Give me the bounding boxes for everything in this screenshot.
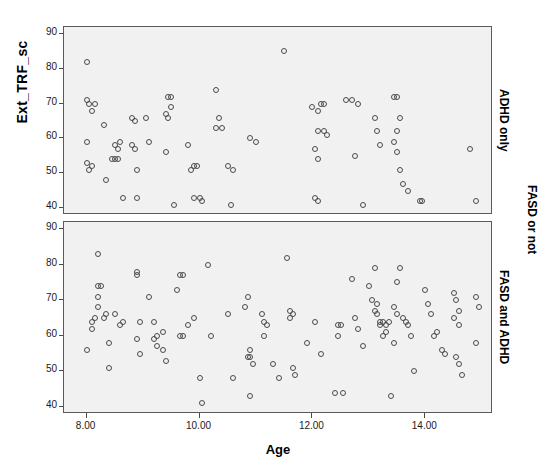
data-point <box>86 167 92 173</box>
y-axis-tick: 70 <box>0 299 63 300</box>
y-tick-mark <box>59 264 63 265</box>
y-axis-tick: 90 <box>0 228 63 229</box>
data-point <box>171 202 177 208</box>
data-point <box>199 198 205 204</box>
data-point <box>106 340 112 346</box>
data-point <box>315 156 321 162</box>
data-point <box>473 198 479 204</box>
data-point <box>89 108 95 114</box>
data-point <box>261 333 267 339</box>
scatter-plot-figure: Ext_TRF_sc 405060708090 405060708090 8.0… <box>0 0 558 473</box>
data-point <box>360 202 366 208</box>
data-point <box>292 372 298 378</box>
y-axis-tick: 40 <box>0 406 63 407</box>
data-point <box>380 333 386 339</box>
data-point <box>250 361 256 367</box>
data-point <box>230 375 236 381</box>
y-axis-tick: 50 <box>0 370 63 371</box>
data-point <box>247 347 253 353</box>
y-tick-mark <box>59 406 63 407</box>
y-tick-label: 50 <box>46 165 57 176</box>
data-point <box>115 156 121 162</box>
data-point <box>397 115 403 121</box>
data-point <box>405 322 411 328</box>
data-point <box>374 301 380 307</box>
data-point <box>134 272 140 278</box>
data-point <box>180 333 186 339</box>
data-point <box>391 340 397 346</box>
data-point <box>191 195 197 201</box>
x-axis-ticks: 8.0010.0012.0014.00 <box>63 413 492 439</box>
panel-adhd-only <box>63 26 492 214</box>
data-point <box>312 319 318 325</box>
data-point <box>185 142 191 148</box>
data-point <box>146 139 152 145</box>
data-point <box>287 315 293 321</box>
data-point <box>247 354 253 360</box>
data-point <box>360 343 366 349</box>
data-point <box>442 351 448 357</box>
panel-label-adhd-only: ADHD only <box>497 75 511 165</box>
data-point <box>264 322 270 328</box>
data-point <box>459 372 465 378</box>
data-point <box>456 361 462 367</box>
data-point <box>163 358 169 364</box>
data-point <box>117 139 123 145</box>
x-tick-label: 8.00 <box>76 420 95 431</box>
y-tick-mark <box>59 335 63 336</box>
data-point <box>355 101 361 107</box>
data-point <box>349 97 355 103</box>
y-tick-label: 40 <box>46 399 57 410</box>
y-tick-mark <box>59 33 63 34</box>
data-point <box>194 163 200 169</box>
y-tick-label: 80 <box>46 257 57 268</box>
data-point <box>219 125 225 131</box>
data-point <box>318 351 324 357</box>
data-point <box>425 301 431 307</box>
data-point <box>405 188 411 194</box>
data-point <box>151 336 157 342</box>
data-point <box>335 333 341 339</box>
data-point <box>391 139 397 145</box>
data-point <box>205 262 211 268</box>
y-tick-label: 90 <box>46 221 57 232</box>
data-point <box>101 122 107 128</box>
data-point <box>168 104 174 110</box>
data-point <box>134 167 140 173</box>
data-point <box>168 94 174 100</box>
data-point <box>213 87 219 93</box>
data-point <box>451 315 457 321</box>
data-point <box>411 368 417 374</box>
data-point <box>270 361 276 367</box>
data-point <box>245 294 251 300</box>
data-point <box>304 340 310 346</box>
data-point <box>216 115 222 121</box>
data-point <box>340 390 346 396</box>
data-point <box>349 276 355 282</box>
data-point <box>185 322 191 328</box>
data-point <box>230 167 236 173</box>
data-point <box>456 322 462 328</box>
data-point <box>290 365 296 371</box>
data-point <box>374 128 380 134</box>
data-point <box>394 94 400 100</box>
data-point <box>103 177 109 183</box>
data-point <box>434 329 440 335</box>
data-point <box>151 319 157 325</box>
data-point <box>132 118 138 124</box>
data-point <box>165 115 171 121</box>
data-point <box>84 139 90 145</box>
data-point <box>276 375 282 381</box>
data-point <box>453 354 459 360</box>
data-point <box>372 265 378 271</box>
y-axis-tick: 50 <box>0 172 63 173</box>
data-point <box>180 272 186 278</box>
data-point <box>377 142 383 148</box>
y-tick-mark <box>59 370 63 371</box>
x-tick-label: 14.00 <box>412 420 437 431</box>
data-point <box>134 195 140 201</box>
data-point <box>428 311 434 317</box>
y-tick-label: 60 <box>46 130 57 141</box>
x-tick-mark <box>86 413 87 418</box>
data-point <box>103 311 109 317</box>
